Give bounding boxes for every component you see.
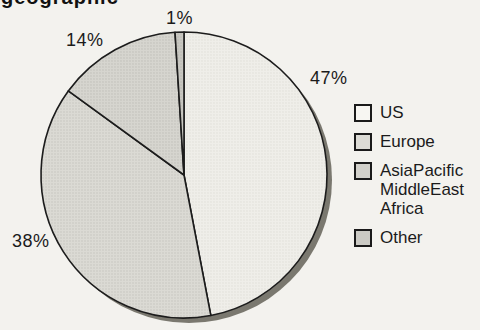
legend-swatch-europe — [354, 133, 372, 151]
slice-label-us: 47% — [310, 69, 348, 88]
legend-label-us: US — [380, 103, 404, 122]
slice-label-other: 1% — [166, 9, 193, 28]
legend-item-europe: Europe — [354, 132, 435, 151]
slice-label-europe: 38% — [12, 232, 50, 251]
legend-item-asiapacific: AsiaPacific MiddleEast Africa — [354, 161, 464, 218]
legend-item-other: Other — [354, 228, 423, 247]
legend-swatch-us — [354, 104, 372, 122]
legend-swatch-other — [354, 229, 372, 247]
legend-swatch-asiapacific — [354, 162, 372, 180]
legend-label-asiapacific: AsiaPacific MiddleEast Africa — [380, 161, 464, 218]
slice-label-asiapacific: 14% — [66, 31, 104, 50]
legend-label-other: Other — [380, 228, 423, 247]
legend-label-europe: Europe — [380, 132, 435, 151]
pie-slice-us — [184, 32, 327, 315]
legend-item-us: US — [354, 103, 404, 122]
pie-slices — [41, 32, 327, 318]
